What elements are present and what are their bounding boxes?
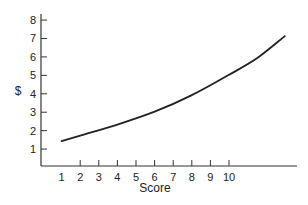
chart: 12345678 12345678910 $ Score (0, 0, 308, 205)
y-tick-label: 3 (30, 106, 36, 118)
y-tick-label: 7 (30, 32, 36, 44)
y-axis: 12345678 (30, 14, 47, 166)
x-tick-label: 4 (114, 171, 120, 183)
x-tick-label: 5 (133, 171, 139, 183)
y-axis-label: $ (15, 84, 22, 98)
y-tick-label: 1 (30, 143, 36, 155)
x-tick-label: 10 (223, 171, 235, 183)
y-tick-label: 5 (30, 69, 36, 81)
x-tick-label: 9 (207, 171, 213, 183)
y-tick-label: 2 (30, 125, 36, 137)
x-tick-label: 8 (189, 171, 195, 183)
data-line (62, 36, 285, 141)
x-axis: 12345678910 (41, 160, 297, 183)
x-tick-label: 7 (170, 171, 176, 183)
y-tick-label: 6 (30, 51, 36, 63)
x-tick-label: 1 (59, 171, 65, 183)
y-tick-label: 4 (30, 88, 36, 100)
x-axis-label: Score (139, 181, 171, 195)
y-tick-label: 8 (30, 14, 36, 26)
x-tick-label: 3 (96, 171, 102, 183)
x-tick-label: 2 (77, 171, 83, 183)
